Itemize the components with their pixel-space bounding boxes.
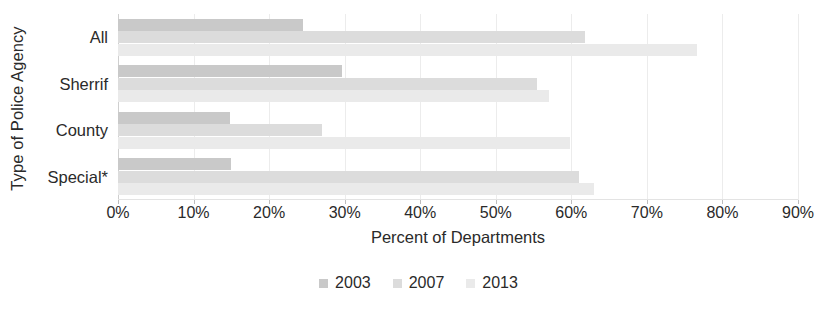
legend-swatch-2013 [466,279,475,288]
category-label-special: Special* [24,169,108,186]
x-tick-label-70: 70% [631,204,663,222]
bar-special-2007 [118,171,579,183]
x-axis-ticks: 0%10%20%30%40%50%60%70%80%90% [0,200,837,222]
bar-group-sherrif [118,65,798,102]
x-tick-label-60: 60% [555,204,587,222]
bar-chart: Type of Police Agency AllSherrifCountySp… [0,0,837,315]
bar-county-2013 [118,137,570,149]
bar-sherrif-2003 [118,65,342,77]
category-label-sherrif: Sherrif [24,76,108,93]
x-tick-label-50: 50% [480,204,512,222]
bar-all-2003 [118,19,303,31]
x-tick-label-30: 30% [329,204,361,222]
bar-county-2003 [118,112,230,124]
legend-label-2007: 2007 [409,275,445,291]
category-label-all: All [24,29,108,46]
bar-sherrif-2007 [118,78,537,90]
x-tick-label-90: 90% [782,204,814,222]
legend: 200320072013 [0,275,837,291]
y-axis-title-text: Type of Police Agency [8,26,27,190]
gridline-90 [798,14,799,200]
x-tick-label-10: 10% [178,204,210,222]
x-tick-label-0: 0% [106,204,129,222]
legend-swatch-2007 [393,279,402,288]
x-tick-label-80: 80% [706,204,738,222]
bar-special-2003 [118,158,231,170]
bar-sherrif-2013 [118,90,549,102]
x-axis-title: Percent of Departments [118,228,798,247]
bar-all-2013 [118,44,697,56]
legend-label-2013: 2013 [482,275,518,291]
x-tick-label-20: 20% [253,204,285,222]
bar-special-2013 [118,183,594,195]
legend-item-2013[interactable]: 2013 [466,275,518,291]
category-axis-labels: AllSherrifCountySpecial* [28,14,112,200]
legend-item-2007[interactable]: 2007 [393,275,445,291]
bar-group-all [118,19,798,56]
plot-area [118,14,798,200]
legend-swatch-2003 [319,279,328,288]
bar-group-special [118,158,798,195]
bar-county-2007 [118,124,322,136]
bar-group-county [118,112,798,149]
x-tick-label-40: 40% [404,204,436,222]
legend-label-2003: 2003 [335,275,371,291]
legend-item-2003[interactable]: 2003 [319,275,371,291]
category-label-county: County [24,122,108,139]
bar-all-2007 [118,31,585,43]
